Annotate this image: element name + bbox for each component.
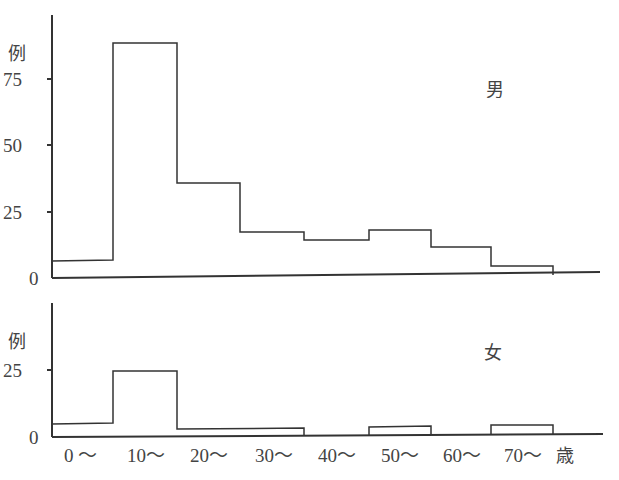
male-tick-label-25: 25 [3,202,22,223]
female-label: 女 [484,342,502,363]
female-tick-label-0: 0 [29,427,39,448]
x-unit-label: 歳 [556,445,574,466]
x-label-70: 70～ [504,445,542,466]
x-label-50: 50～ [381,445,419,466]
male-x-axis [52,272,600,278]
x-label-40: 40～ [318,445,356,466]
male-y-unit: 例 [8,43,26,64]
x-label-10: 10～ [127,445,165,466]
x-label-20: 20～ [190,445,228,466]
male-tick-label-75: 75 [3,69,22,90]
x-label-60: 60～ [443,445,481,466]
histogram-figure: 例 75 50 25 0 男 例 25 0 女 0 ～ 10～ 20～ 30～ … [0,0,619,480]
male-label: 男 [486,79,504,100]
male-tick-label-0: 0 [29,268,39,289]
male-histogram-bars [52,43,553,275]
x-label-0: 0 ～ [64,445,97,466]
x-label-30: 30～ [255,445,293,466]
female-y-unit: 例 [8,331,26,352]
male-chart: 例 75 50 25 0 男 [3,15,600,289]
female-histogram-bars-a [52,371,304,436]
female-tick-label-25: 25 [3,360,22,381]
female-x-axis [52,434,603,437]
male-tick-label-50: 50 [3,135,22,156]
female-chart: 例 25 0 女 0 ～ 10～ 20～ 30～ 40～ 50～ 60～ 70～… [3,303,603,466]
